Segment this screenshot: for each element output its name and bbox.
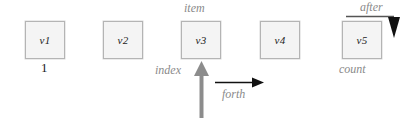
list-cell-v4: v4: [260, 21, 300, 59]
list-cell-v1: v1: [25, 21, 65, 59]
after-label: after: [360, 0, 383, 15]
arrows-overlay: [0, 0, 417, 118]
first-index-label: 1: [41, 60, 48, 76]
list-cell-v2: v2: [103, 21, 143, 59]
list-cell-v3: v3: [181, 21, 221, 59]
index-cursor-arrow: [194, 61, 209, 118]
cell-label: v4: [261, 34, 299, 46]
cell-label: v2: [104, 34, 142, 46]
cell-label: v3: [182, 34, 220, 46]
cell-label: v5: [343, 34, 381, 46]
forth-label: forth: [222, 87, 245, 102]
forth-arrow: [215, 78, 264, 88]
cell-label: v1: [26, 34, 64, 46]
item-label: item: [184, 1, 205, 16]
count-label: count: [339, 62, 366, 77]
index-label: index: [155, 63, 181, 78]
list-cursor-diagram: v1 v2 v3 v4 v5 1 item index forth after …: [0, 0, 417, 118]
list-cell-v5: v5: [342, 21, 382, 59]
